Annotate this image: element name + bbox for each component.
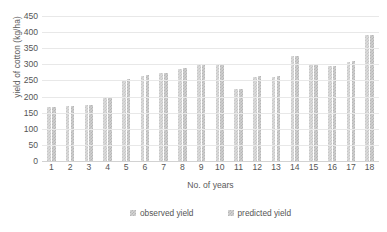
y-axis-tick-label: 100 — [8, 125, 38, 134]
gridline — [42, 16, 379, 17]
gridline — [42, 145, 379, 146]
bar-group — [103, 16, 111, 161]
y-axis-tick-label: 450 — [8, 12, 38, 21]
bar-group — [291, 16, 299, 161]
y-axis-tick-label: 50 — [8, 141, 38, 150]
x-axis-tick-label: 8 — [172, 163, 192, 172]
y-axis-tick-label: 0 — [8, 157, 38, 166]
bar-predicted — [164, 73, 168, 161]
x-axis-tick-label: 9 — [191, 163, 211, 172]
x-axis-tick-label: 16 — [322, 163, 342, 172]
bar-predicted — [127, 79, 131, 161]
x-axis-tick-label: 6 — [135, 163, 155, 172]
bar-observed — [141, 76, 145, 161]
gridline — [42, 129, 379, 130]
gridline — [42, 80, 379, 81]
gridline — [42, 113, 379, 114]
bar-observed — [66, 106, 70, 161]
bar-group — [66, 16, 74, 161]
x-axis-tick-label: 14 — [285, 163, 305, 172]
bar-group — [197, 16, 205, 161]
legend-swatch-icon — [130, 210, 136, 216]
y-axis-tick-label: 300 — [8, 60, 38, 69]
legend-label: predicted yield — [238, 209, 292, 217]
bar-predicted — [370, 35, 374, 161]
bar-chart: yield of cotton (kg/ha) 0501001502002503… — [0, 0, 387, 232]
x-axis-tick-label: 12 — [247, 163, 267, 172]
bar-predicted — [71, 106, 75, 161]
gridline — [42, 48, 379, 49]
plot-area — [42, 16, 379, 161]
bar-predicted — [277, 76, 281, 161]
y-axis-tick-label: 350 — [8, 44, 38, 53]
x-axis-tick-label: 1 — [41, 163, 61, 172]
bar-group — [328, 16, 336, 161]
gridline — [42, 32, 379, 33]
bar-observed — [347, 62, 351, 161]
legend-item: observed yield — [130, 209, 194, 217]
bar-observed — [159, 73, 163, 161]
bar-group — [216, 16, 224, 161]
bar-group — [253, 16, 261, 161]
x-axis-tick-label: 5 — [116, 163, 136, 172]
bar-observed — [253, 77, 257, 161]
bar-observed — [365, 35, 369, 161]
bar-group — [365, 16, 373, 161]
x-axis-tick-label: 11 — [229, 163, 249, 172]
bar-observed — [272, 77, 276, 161]
bar-predicted — [183, 68, 187, 161]
bar-group — [122, 16, 130, 161]
bar-observed — [234, 89, 238, 161]
y-axis-tick-label: 150 — [8, 109, 38, 118]
y-axis-tick-label: 250 — [8, 76, 38, 85]
bar-group — [272, 16, 280, 161]
bar-series-container — [42, 16, 379, 161]
legend-label: observed yield — [140, 209, 194, 217]
chart-legend: observed yieldpredicted yield — [42, 206, 379, 220]
bar-predicted — [258, 76, 262, 161]
x-axis-tick-label: 7 — [154, 163, 174, 172]
bar-observed — [178, 69, 182, 161]
bar-predicted — [52, 107, 56, 161]
bar-group — [47, 16, 55, 161]
bar-group — [234, 16, 242, 161]
bar-predicted — [352, 61, 356, 161]
legend-item: predicted yield — [228, 209, 292, 217]
y-axis-tick-labels: 050100150200250300350400450 — [0, 16, 38, 161]
x-axis-tick-label: 3 — [79, 163, 99, 172]
x-axis-tick-label: 2 — [60, 163, 80, 172]
bar-observed — [122, 80, 126, 161]
x-axis-tick-label: 4 — [98, 163, 118, 172]
bar-observed — [47, 107, 51, 161]
x-axis-tick-label: 17 — [341, 163, 361, 172]
y-axis-tick-label: 200 — [8, 93, 38, 102]
x-axis-tick-label: 18 — [360, 163, 380, 172]
bar-group — [347, 16, 355, 161]
x-axis-tick-labels: 123456789101112131415161718 — [42, 163, 379, 176]
gridline — [42, 97, 379, 98]
bar-predicted — [146, 75, 150, 161]
x-axis-tick-label: 15 — [303, 163, 323, 172]
x-axis-tick-label: 10 — [210, 163, 230, 172]
bar-group — [309, 16, 317, 161]
bar-group — [85, 16, 93, 161]
y-axis-tick-label: 400 — [8, 28, 38, 37]
x-axis-tick-label: 13 — [266, 163, 286, 172]
x-axis-title: No. of years — [42, 180, 379, 190]
bar-group — [141, 16, 149, 161]
bar-predicted — [239, 89, 243, 161]
bar-group — [159, 16, 167, 161]
legend-swatch-icon — [228, 210, 234, 216]
bar-group — [178, 16, 186, 161]
gridline — [42, 64, 379, 65]
